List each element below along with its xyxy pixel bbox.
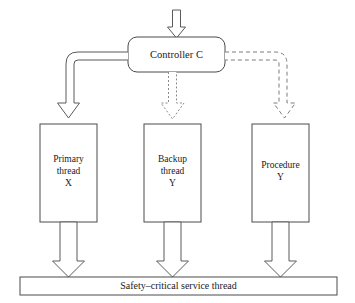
controller-to-primary-arrow [58,52,129,118]
procedure-label-line2: Y [277,172,284,182]
service-bar-label: Safety–critical service thread [120,280,237,291]
backup-thread-label-line3: Y [169,178,176,188]
controller-label: Controller C [150,49,203,60]
controller-to-procedure-arrow [225,52,296,118]
backup-thread-label-line2: thread [161,166,185,176]
service-bar-node[interactable]: Safety–critical service thread [20,277,337,295]
procedure-to-service-arrow [265,222,297,277]
controller-to-backup-arrow [161,72,184,119]
input-arrow [168,10,186,38]
primary-thread-node[interactable]: Primary thread X [40,124,97,222]
primary-to-service-arrow [53,222,85,277]
primary-thread-label-line2: thread [57,166,81,176]
procedure-label-line1: Procedure [261,160,300,170]
backup-thread-label-line1: Backup [158,154,187,164]
primary-thread-label-line3: X [65,178,72,188]
backup-thread-node[interactable]: Backup thread Y [144,124,201,222]
controller-node[interactable]: Controller C [128,37,225,72]
diagram-canvas: Controller C Primary thread X Backup thr… [0,0,355,303]
procedure-node[interactable]: Procedure Y [252,124,309,222]
diagram-svg: Controller C Primary thread X Backup thr… [0,0,355,303]
backup-to-service-arrow [157,222,189,277]
primary-thread-label-line1: Primary [53,154,84,164]
